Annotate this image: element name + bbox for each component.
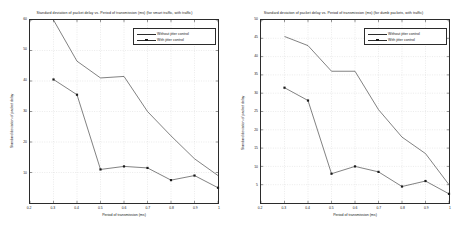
x-tick-label: 0.4 — [70, 206, 84, 210]
legend-line-marker-icon — [367, 37, 388, 43]
y-tick-label: 30 — [247, 91, 258, 95]
y-tick-label: 20 — [16, 140, 27, 144]
plot-area — [260, 19, 450, 204]
x-tick-label: 0.6 — [348, 206, 362, 210]
x-tick-label: 0.3 — [277, 206, 291, 210]
y-tick-label: 35 — [247, 72, 258, 76]
x-tick-label: 0.5 — [93, 206, 107, 210]
x-tick-label: 0.6 — [117, 206, 131, 210]
data-series-group — [261, 20, 449, 203]
legend: Without jitter control With jitter contr… — [133, 28, 216, 45]
x-tick-label: 0.8 — [396, 206, 410, 210]
y-tick-label: 50 — [16, 47, 27, 51]
legend-line-icon — [136, 31, 157, 37]
y-tick-label: 5 — [247, 183, 258, 187]
x-tick-label: 0.2 — [253, 206, 267, 210]
x-tick-label: 0.2 — [22, 206, 36, 210]
chart-title: Standard deviation of packet delay vs. P… — [0, 11, 229, 16]
legend: Without jitter control With jitter contr… — [364, 28, 447, 45]
x-tick-label: 0.9 — [419, 206, 433, 210]
x-tick-label: 0.7 — [372, 206, 386, 210]
legend-line-marker-icon — [136, 37, 157, 43]
y-tick-label: 60 — [16, 17, 27, 21]
x-tick-label: 0.4 — [301, 206, 315, 210]
legend-item-with-jitter-control: With jitter control — [136, 37, 213, 44]
legend-item-with-jitter-control: With jitter control — [367, 37, 444, 44]
y-tick-label: 50 — [247, 17, 258, 21]
plot-area — [29, 19, 219, 204]
y-tick-label: 25 — [247, 109, 258, 113]
y-axis-label: Standard deviation of packet delay — [10, 94, 14, 148]
chart-figure-smart-traffic: Standard deviation of packet delay vs. P… — [0, 0, 229, 234]
y-tick-label: 40 — [247, 54, 258, 58]
legend-label: With jitter control — [388, 37, 415, 44]
x-tick-label: 0.3 — [46, 206, 60, 210]
y-tick-label: 30 — [16, 109, 27, 113]
x-tick-label: 0.5 — [324, 206, 338, 210]
y-tick-label: 45 — [247, 35, 258, 39]
y-tick-label: 15 — [247, 146, 258, 150]
x-tick-label: 0.7 — [141, 206, 155, 210]
x-axis-label: Period of transmission (ms) — [29, 213, 219, 217]
y-tick-label: 10 — [247, 165, 258, 169]
y-tick-label: 20 — [247, 128, 258, 132]
legend-label: With jitter control — [157, 37, 184, 44]
legend-line-icon — [367, 31, 388, 37]
chart-title: Standard deviation of packet delay vs. P… — [229, 11, 458, 16]
x-tick-label: 0.9 — [188, 206, 202, 210]
x-tick-label: 0.8 — [165, 206, 179, 210]
data-series-group — [30, 20, 218, 203]
y-axis-label: Standard deviation of packet delay — [241, 96, 245, 150]
figure-row: Standard deviation of packet delay vs. P… — [0, 0, 458, 234]
chart-figure-dumb-packets: Standard deviation of packet delay vs. P… — [229, 0, 458, 234]
x-tick-label: 1 — [212, 206, 226, 210]
x-axis-label: Period of transmission (ms) — [260, 213, 450, 217]
y-tick-label: 10 — [16, 171, 27, 175]
x-tick-label: 1 — [443, 206, 457, 210]
y-tick-label: 40 — [16, 78, 27, 82]
